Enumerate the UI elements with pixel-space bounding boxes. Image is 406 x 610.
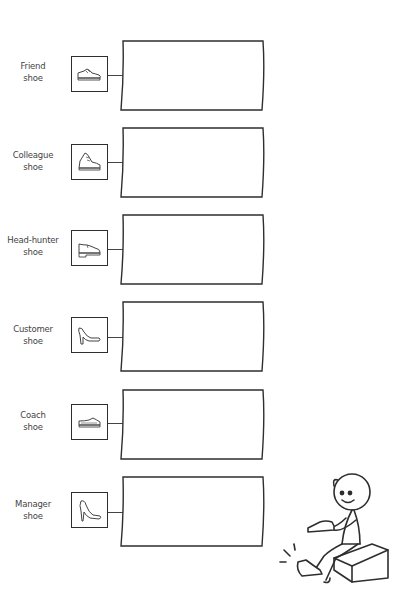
label-line2: shoe [0, 421, 66, 433]
label-line1: Manager [0, 498, 66, 510]
label-line2: shoe [0, 335, 66, 347]
row-label: Manager shoe [0, 498, 66, 522]
row-colleague-shoe: Colleague shoe [0, 127, 280, 199]
note-box[interactable] [121, 40, 264, 110]
row-friend-shoe: Friend shoe [0, 40, 280, 112]
row-label: Friend shoe [0, 60, 66, 84]
shoe-icon-frame [71, 144, 108, 180]
row-coach-shoe: Coach shoe [0, 389, 280, 461]
oxford-shoe-icon [75, 235, 103, 261]
label-line2: shoe [0, 510, 66, 522]
pump-heel-icon [75, 322, 103, 348]
row-label: Head-hunter shoe [0, 234, 66, 258]
label-line2: shoe [0, 72, 66, 84]
row-head-hunter-shoe: Head-hunter shoe [0, 214, 280, 286]
label-line1: Coach [0, 409, 66, 421]
shoe-icon-frame [71, 230, 108, 266]
label-line2: shoe [0, 161, 66, 173]
note-box[interactable] [121, 301, 264, 371]
label-line1: Customer [0, 323, 66, 335]
label-line1: Head-hunter [0, 234, 66, 246]
label-line1: Friend [0, 60, 66, 72]
label-line2: shoe [0, 246, 66, 258]
stiletto-heel-icon [75, 497, 103, 523]
shoe-icon-frame [71, 404, 108, 440]
high-top-sneaker-icon [75, 149, 103, 175]
row-label: Customer shoe [0, 323, 66, 347]
shoe-icon-frame [71, 56, 108, 92]
label-line1: Colleague [0, 149, 66, 161]
row-manager-shoe: Manager shoe [0, 476, 280, 548]
cube-seat [334, 544, 388, 582]
sneaker-icon [75, 61, 103, 87]
shoe-icon-frame [71, 317, 108, 353]
row-customer-shoe: Customer shoe [0, 301, 280, 373]
note-box[interactable] [121, 476, 264, 546]
note-box[interactable] [121, 127, 264, 197]
shoe-icon-frame [71, 492, 108, 528]
row-label: Coach shoe [0, 409, 66, 433]
slip-on-shoe-icon [75, 409, 103, 435]
row-label: Colleague shoe [0, 149, 66, 173]
stick-figure-illustration [272, 470, 406, 610]
note-box[interactable] [121, 389, 264, 459]
note-box[interactable] [121, 214, 264, 284]
